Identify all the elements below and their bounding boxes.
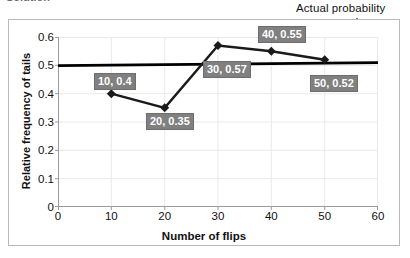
y-tick-1: 0.1 (14, 173, 58, 185)
x-tick-3: 30 (203, 210, 233, 222)
x-tick-6: 60 (363, 210, 393, 222)
x-tick-2: 20 (150, 210, 180, 222)
y-tick-5: 0.5 (14, 59, 58, 71)
data-point-marker (107, 89, 116, 98)
y-tick-6: 0.6 (14, 31, 58, 43)
cutoff-heading-text: Solution (6, 0, 96, 6)
data-point-label-10: 10, 0.4 (94, 73, 136, 90)
x-axis-tick-labels: 0 10 20 30 40 50 60 (58, 210, 378, 228)
x-tick-4: 40 (256, 210, 286, 222)
data-point-label-30: 30, 0.57 (203, 61, 251, 78)
data-point-label-20: 20, 0.35 (146, 113, 194, 130)
y-tick-3: 0.3 (14, 116, 58, 128)
x-axis-title: Number of flips (9, 230, 399, 242)
x-tick-0: 0 (43, 210, 73, 222)
y-tick-4: 0.4 (14, 88, 58, 100)
actual-probability-annotation-label: Actual probability (296, 2, 385, 14)
x-tick-5: 50 (310, 210, 340, 222)
plot-area: 10, 0.4 20, 0.35 30, 0.57 40, 0.55 50, 0… (58, 37, 378, 207)
x-tick-1: 10 (96, 210, 126, 222)
data-point-label-50: 50, 0.52 (310, 75, 358, 92)
y-axis-tick-labels: 0 0.1 0.2 0.3 0.4 0.5 0.6 (9, 37, 58, 207)
data-point-marker (267, 47, 276, 56)
data-point-label-40: 40, 0.55 (258, 26, 306, 43)
chart-frame: Relative frequency of tails 0 0.1 0.2 0.… (8, 19, 400, 246)
y-tick-2: 0.2 (14, 144, 58, 156)
